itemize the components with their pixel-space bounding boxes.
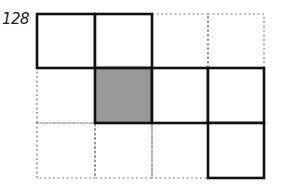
solid-cell <box>37 14 95 68</box>
dotted-cell <box>37 68 95 123</box>
solid-cell <box>208 123 264 178</box>
dotted-cell <box>95 123 152 178</box>
solid-cell <box>95 14 152 68</box>
shaded-cell <box>95 68 152 123</box>
dotted-cell <box>152 14 208 68</box>
square-grid-diagram <box>0 0 281 185</box>
dotted-cell <box>152 123 208 178</box>
dotted-cell <box>37 123 95 178</box>
solid-cell <box>208 68 264 123</box>
solid-cell <box>152 68 208 123</box>
dotted-cell <box>208 14 264 68</box>
